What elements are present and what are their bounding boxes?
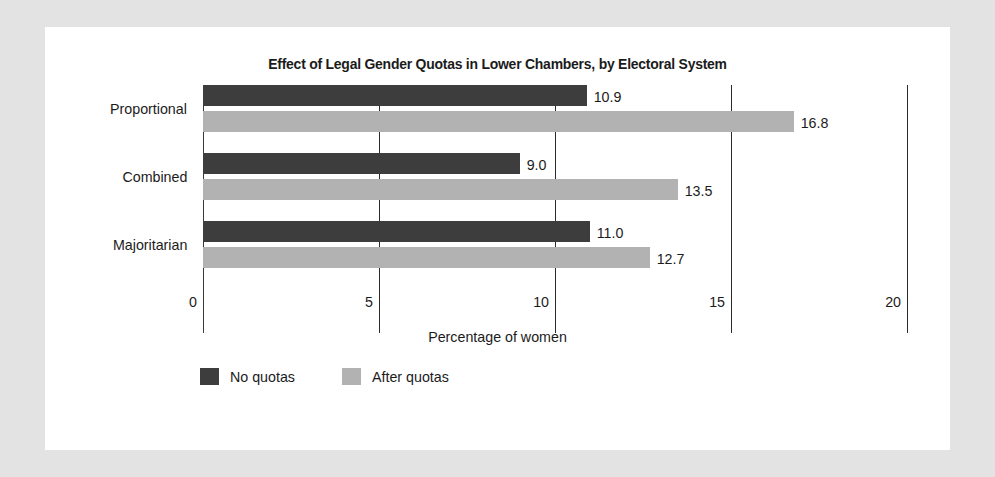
bar-row: 13.5 <box>203 179 907 200</box>
plot-wrapper: ProportionalCombinedMajoritarian 10.916.… <box>45 27 950 450</box>
gridline <box>907 85 908 333</box>
bar-value-label: 13.5 <box>678 181 712 198</box>
bar-row: 12.7 <box>203 247 907 268</box>
bar <box>203 111 794 132</box>
x-tick-label: 5 <box>322 293 373 310</box>
bar-value-label: 9.0 <box>520 155 546 172</box>
legend-swatch-icon <box>200 368 219 385</box>
bar-row: 10.9 <box>203 85 907 106</box>
bar-row: 16.8 <box>203 111 907 132</box>
legend-label: After quotas <box>372 368 449 385</box>
bar <box>203 179 678 200</box>
legend-label: No quotas <box>230 368 295 385</box>
x-tick-label: 10 <box>498 293 549 310</box>
bar <box>203 221 590 242</box>
bar-row: 11.0 <box>203 221 907 242</box>
plot-area: 10.916.89.013.511.012.7 <box>203 85 907 289</box>
x-tick-label: 0 <box>146 293 197 310</box>
x-tick-label: 15 <box>674 293 725 310</box>
bar-value-label: 10.9 <box>587 87 621 104</box>
bar <box>203 85 587 106</box>
x-tick-label: 20 <box>850 293 901 310</box>
chart-card: Effect of Legal Gender Quotas in Lower C… <box>45 27 950 450</box>
bar-value-label: 16.8 <box>794 113 828 130</box>
chart-legend: No quotasAfter quotas <box>200 365 497 387</box>
bar-row: 9.0 <box>203 153 907 174</box>
bar-value-label: 12.7 <box>650 249 684 266</box>
category-label: Combined <box>122 168 187 185</box>
legend-swatch-icon <box>342 368 361 385</box>
bar <box>203 247 650 268</box>
category-label: Proportional <box>110 100 187 117</box>
bar-value-label: 11.0 <box>590 223 623 240</box>
legend-item[interactable]: After quotas <box>342 368 453 385</box>
x-axis-title: Percentage of women <box>68 328 928 345</box>
category-axis: ProportionalCombinedMajoritarian <box>45 85 187 289</box>
category-label: Majoritarian <box>113 236 187 253</box>
x-axis-ticks: 05101520 <box>203 293 907 319</box>
legend-item[interactable]: No quotas <box>200 368 298 385</box>
bar <box>203 153 520 174</box>
